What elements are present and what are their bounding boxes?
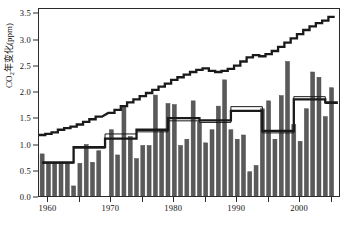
bar [248,172,252,197]
bar [46,164,50,197]
chart-figure: CO2年变化(ppm) 0.00.51.01.52.02.53.03.5 196… [0,0,346,251]
bar [135,159,139,197]
x-tick-mark [47,197,48,202]
x-tick-mark [110,197,111,202]
bar [84,144,88,197]
y-tick-label: 2.0 [20,88,31,97]
bar [122,106,126,197]
bar [78,163,82,197]
y-tick-label: 1.0 [20,140,31,149]
bar [197,122,201,197]
y-axis-title-subscript: 2 [8,72,16,76]
x-tick-label: 1990 [227,204,245,213]
bar [254,165,258,197]
bar [223,80,227,197]
x-tick-mark [79,197,80,202]
x-tick-mark [331,197,332,202]
y-tick-label: 3.5 [20,9,31,18]
bar [292,125,296,198]
bar [97,151,101,197]
x-tick-mark [173,197,174,202]
x-tick-label: 2000 [290,204,308,213]
bar [323,117,327,197]
bar [279,96,283,197]
bar [59,163,63,197]
y-tick-label: 2.5 [20,62,31,71]
bar [191,101,195,197]
chart-layers [39,9,339,196]
bar-series [40,62,333,198]
bar [141,146,145,198]
bar [179,146,183,198]
bar [311,72,315,197]
y-tick-label: 0.5 [20,167,31,176]
bar [204,143,208,197]
bar [317,77,321,197]
x-tick-label: 1960 [39,204,57,213]
x-tick-mark [205,197,206,202]
bar [298,141,302,197]
x-tick-mark [299,197,300,202]
chart-canvas [39,9,340,197]
x-tick-label: 1970 [101,204,119,213]
bar [53,163,57,197]
bar [160,131,164,197]
y-tick-label: 3.0 [20,35,31,44]
bar [210,130,214,197]
x-tick-mark [268,197,269,202]
bar [286,62,290,198]
bar [229,130,233,197]
bar [147,146,151,198]
y-tick-label: 1.5 [20,114,31,123]
plot-area [38,8,340,197]
x-axis: 19601970198019902000 [38,197,340,237]
bar [109,130,113,197]
x-tick-label: 1980 [164,204,182,213]
bar [330,88,334,197]
bar [267,101,271,197]
bar [241,135,245,197]
bar [235,139,239,197]
y-axis-title-prefix: CO [4,75,14,88]
bar [116,155,120,197]
y-tick-label: 0.0 [20,193,31,202]
x-tick-mark [142,197,143,202]
bar [65,164,69,197]
x-tick-mark [236,197,237,202]
bar [128,137,132,197]
bar [153,95,157,197]
bar [185,139,189,197]
y-axis-title: CO2年变化(ppm) [2,0,17,120]
bar [72,186,76,197]
bar [273,139,277,197]
y-axis: CO2年变化(ppm) 0.00.51.01.52.02.53.03.5 [0,0,38,205]
bar [90,162,94,197]
bar [304,109,308,197]
bar [40,154,44,197]
y-axis-title-suffix: 年变化(ppm) [4,23,14,72]
